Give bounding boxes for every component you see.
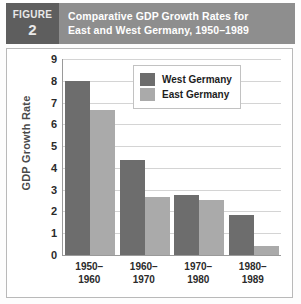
- legend-swatch-west-germany-icon: [140, 73, 155, 86]
- bar: [254, 246, 279, 255]
- bar: [199, 200, 224, 255]
- legend-label-west-germany: West Germany: [162, 74, 232, 85]
- bar: [120, 160, 145, 255]
- legend-item-west-germany: West Germany: [140, 73, 232, 86]
- bar: [174, 195, 199, 255]
- x-axis-tick-label-line: 1989: [226, 274, 281, 287]
- y-axis-tick-label: 3: [51, 184, 57, 196]
- bar: [65, 81, 90, 255]
- y-axis-tick-label: 5: [51, 140, 57, 152]
- y-axis-tick-label: 8: [51, 75, 57, 87]
- bar: [229, 215, 254, 255]
- y-axis-tick-label: 7: [51, 97, 57, 109]
- x-axis-tick-label-line: 1960–: [117, 261, 172, 274]
- x-axis-tick-label: 1960–1970: [117, 261, 172, 286]
- figure-root: FIGURE 2 Comparative GDP Growth Rates fo…: [0, 0, 301, 304]
- x-axis-tick-label-line: 1970–: [171, 261, 226, 274]
- y-axis-tick-label: 9: [51, 53, 57, 65]
- legend-label-east-germany: East Germany: [162, 89, 229, 100]
- x-axis-tick-label-line: 1950–: [62, 261, 117, 274]
- y-axis-label: GDP Growth Rate: [20, 88, 32, 198]
- bar-group: [63, 59, 118, 255]
- bar: [145, 197, 170, 255]
- figure-title-line-2: East and West Germany, 1950–1989: [68, 24, 291, 38]
- y-axis-tick-label: 4: [51, 162, 57, 174]
- figure-title-line-1: Comparative GDP Growth Rates for: [68, 10, 291, 24]
- legend-item-east-germany: East Germany: [140, 88, 232, 101]
- legend-swatch-east-germany-icon: [140, 88, 155, 101]
- figure-header: FIGURE 2 Comparative GDP Growth Rates fo…: [6, 3, 295, 44]
- x-axis-tick-label-line: 1980: [171, 274, 226, 287]
- figure-badge-word: FIGURE: [13, 10, 53, 20]
- x-axis-tick-label: 1980–1989: [226, 261, 281, 286]
- figure-title: Comparative GDP Growth Rates for East an…: [59, 3, 295, 44]
- chart-legend: West Germany East Germany: [133, 65, 241, 109]
- y-axis-tick-label: 0: [51, 249, 57, 261]
- chart-panel: GDP Growth Rate 0123456789 1950–19601960…: [6, 48, 293, 298]
- x-axis-tick-label: 1950–1960: [62, 261, 117, 286]
- x-axis-tick-label: 1970–1980: [171, 261, 226, 286]
- figure-badge-number: 2: [28, 22, 36, 37]
- x-axis-tick-label-line: 1970: [117, 274, 172, 287]
- x-axis-tick-label-line: 1960: [62, 274, 117, 287]
- x-axis-labels: 1950–19601960–19701970–19801980–1989: [62, 261, 280, 286]
- x-axis-tick-label-line: 1980–: [226, 261, 281, 274]
- y-axis-tick-label: 6: [51, 118, 57, 130]
- y-axis-tick-label: 2: [51, 205, 57, 217]
- figure-number-badge: FIGURE 2: [6, 3, 59, 44]
- bar: [90, 110, 115, 255]
- y-axis-tick-label: 1: [51, 227, 57, 239]
